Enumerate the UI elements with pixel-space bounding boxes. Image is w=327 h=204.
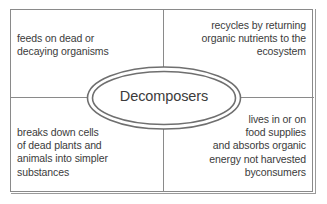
divider-vertical-top	[163, 10, 164, 70]
divider-horizontal-left	[11, 97, 89, 98]
quadrant-text-top-left: feeds on dead or decaying organisms	[17, 32, 153, 58]
divider-vertical-bottom	[163, 127, 164, 192]
quadrant-text-top-right: recycles by returning organic nutrients …	[172, 19, 306, 59]
frame-bottom-edge	[11, 193, 316, 194]
concept-map-diagram: feeds on dead or decaying organisms recy…	[0, 0, 327, 204]
divider-horizontal-right	[239, 97, 314, 98]
center-node-label: Decomposers	[86, 87, 242, 105]
quadrant-text-bottom-left: breaks down cells of dead plants and ani…	[17, 126, 157, 179]
frame-right-edge	[315, 9, 316, 193]
